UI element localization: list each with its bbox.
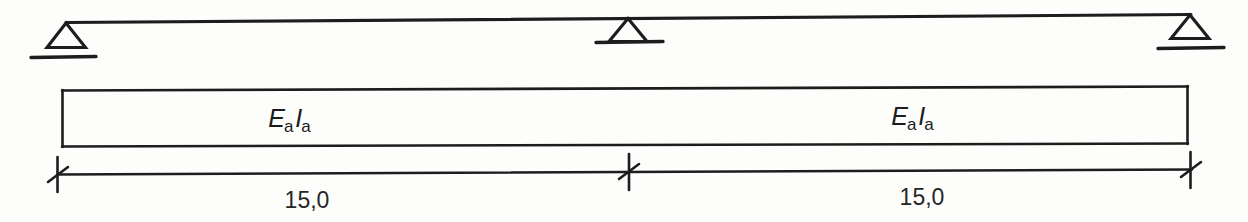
dimension-line-group (48, 152, 1201, 192)
right-support (1158, 15, 1224, 49)
beam-top-edge (62, 87, 1188, 91)
middle-support-triangle (609, 19, 647, 42)
beam-diagram-sheet: EaIa EaIa 15,0 15,0 (0, 0, 1248, 222)
left-support (31, 23, 96, 58)
beam-diagram-svg (0, 0, 1248, 222)
middle-support (596, 19, 663, 43)
middle-support-ground-line (596, 42, 663, 43)
right-support-ground-line (1158, 48, 1224, 49)
left-support-triangle (47, 23, 86, 48)
beam-member-rectangle (62, 86, 1188, 147)
right-support-triangle (1171, 15, 1209, 39)
left-support-ground-line (31, 57, 96, 58)
beam-bottom-edge (62, 144, 1188, 147)
